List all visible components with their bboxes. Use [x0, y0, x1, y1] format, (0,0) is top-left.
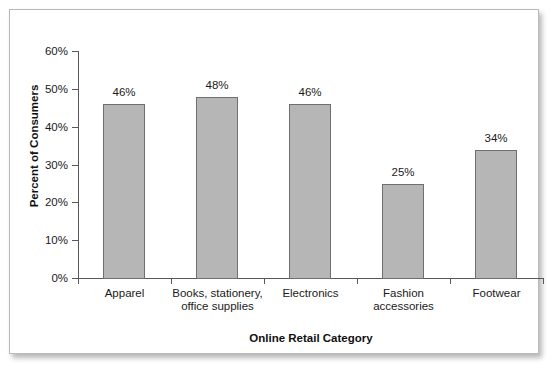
x-axis-tick-1: [171, 278, 172, 284]
x-axis-category-label-books-stationery-office-supplies: Books, stationery, office supplies: [156, 287, 279, 313]
x-axis-title: Online Retail Category: [78, 332, 544, 344]
category-line: Electronics: [264, 287, 357, 300]
y-axis-tick-40: [72, 127, 78, 128]
category-line: Footwear: [450, 287, 543, 300]
x-axis-category-label-fashion-accessories: Fashion accessories: [357, 287, 450, 313]
bar-value-apparel: 46%: [94, 87, 154, 99]
y-axis-tick-label-10: 10%: [10, 235, 68, 247]
bar-footwear[interactable]: [475, 150, 517, 279]
bar-apparel[interactable]: [103, 104, 145, 279]
y-axis-line: [78, 51, 79, 279]
y-axis-tick-50: [72, 89, 78, 90]
y-axis-title: Percent of Consumers: [28, 56, 40, 236]
x-axis-category-label-electronics: Electronics: [264, 287, 357, 300]
bar-electronics[interactable]: [289, 104, 331, 279]
bar-value-books-stationery-office-supplies: 48%: [187, 80, 247, 92]
x-axis-tick-4: [450, 278, 451, 284]
y-axis-tick-label-0: 0%: [10, 273, 68, 285]
category-line: accessories: [357, 300, 450, 313]
bar-books-stationery-office-supplies[interactable]: [196, 97, 238, 279]
bar-value-electronics: 46%: [280, 87, 340, 99]
category-line: Fashion: [357, 287, 450, 300]
x-axis-tick-5: [543, 278, 544, 284]
category-line: Books, stationery,: [156, 287, 279, 300]
bar-value-fashion-accessories: 25%: [373, 167, 433, 179]
category-line: office supplies: [156, 300, 279, 313]
y-axis-tick-30: [72, 165, 78, 166]
x-axis-tick-3: [357, 278, 358, 284]
y-axis-tick-20: [72, 202, 78, 203]
bar-fashion-accessories[interactable]: [382, 184, 424, 279]
bar-value-footwear: 34%: [466, 133, 526, 145]
y-axis-tick-10: [72, 240, 78, 241]
chart-figure: 0% 10% 20% 30% 40% 50% 60% 46% 48% 46%: [0, 0, 559, 370]
y-axis-tick-60: [72, 51, 78, 52]
figure-frame: 0% 10% 20% 30% 40% 50% 60% 46% 48% 46%: [9, 9, 539, 354]
x-axis-tick-2: [264, 278, 265, 284]
x-axis-tick-0: [78, 278, 79, 284]
x-axis-category-label-footwear: Footwear: [450, 287, 543, 300]
